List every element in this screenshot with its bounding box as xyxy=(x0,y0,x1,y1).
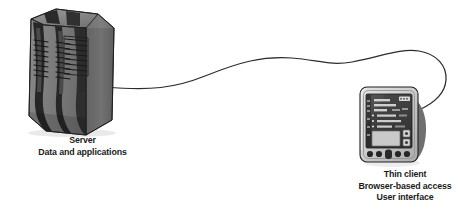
server-caption-line-2: Data and applications xyxy=(6,146,159,158)
thin-client-device-icon xyxy=(360,87,426,167)
thin-client-caption-line-3: User interface xyxy=(342,191,468,203)
thin-client-caption-line-1: Thin client xyxy=(342,168,468,180)
server-tower-icon xyxy=(28,9,116,137)
thin-client-caption: Thin client Browser-based access User in… xyxy=(342,168,468,203)
diagram-canvas: Server Data and applications Thin client… xyxy=(0,0,473,215)
server-caption-line-1: Server xyxy=(6,134,159,146)
thin-client-caption-line-2: Browser-based access xyxy=(342,180,468,192)
server-caption: Server Data and applications xyxy=(6,134,159,157)
